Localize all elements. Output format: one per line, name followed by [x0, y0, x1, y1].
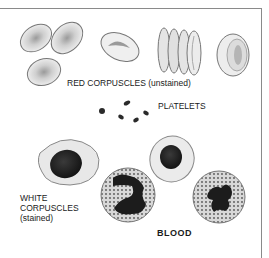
white-corpuscles-label: WHITE CORPUSCLES (stained): [20, 193, 79, 223]
platelets-label: PLATELETS: [158, 101, 206, 111]
red-corpuscle-icon: [45, 16, 89, 60]
blood-title: BLOOD: [157, 228, 192, 238]
red-corpuscle-icon: [15, 18, 57, 57]
red-corpuscle-edge-icon: [217, 34, 249, 76]
white-label-line1: WHITE: [20, 193, 79, 203]
red-corpuscles-label: RED CORPUSCLES (unstained): [67, 78, 191, 88]
white-corpuscle-eosinophil-icon: [193, 171, 245, 223]
red-corpuscle-side-icon: [96, 27, 143, 67]
red-corpuscle-icon: [24, 54, 65, 90]
white-corpuscle-lymphocyte-icon: [38, 140, 99, 185]
white-corpuscle-monocyte-icon: [143, 130, 200, 188]
red-corpuscle-stack-icon: [158, 28, 201, 75]
platelets-icon: [99, 100, 150, 124]
white-label-line2: CORPUSCLES: [20, 203, 79, 213]
white-corpuscle-neutrophil-icon: [101, 168, 155, 222]
white-label-line3: (stained): [20, 213, 79, 223]
